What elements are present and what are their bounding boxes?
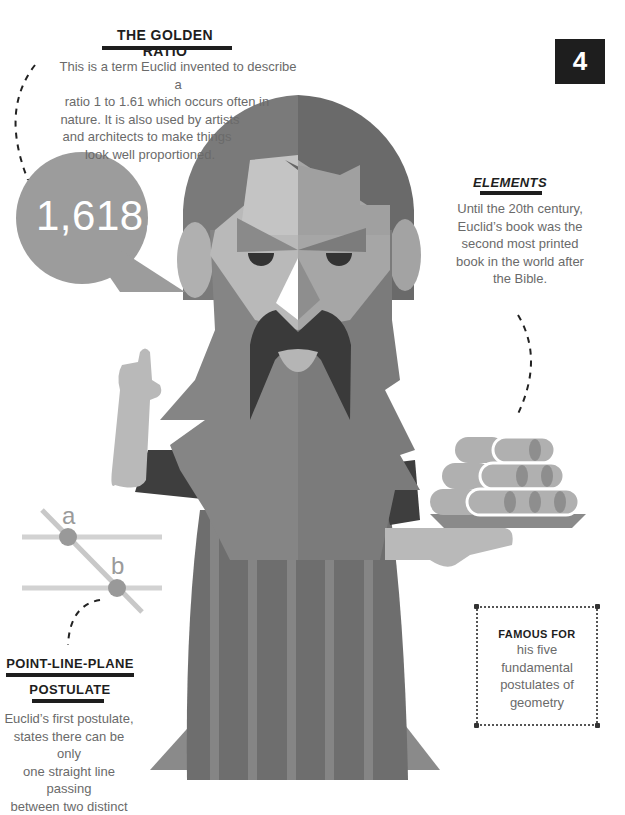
postulate-title-line2: POSTULATE	[4, 682, 136, 697]
elements-text: Until the 20th century, Euclid’s book wa…	[430, 200, 610, 288]
point-line-diagram	[22, 510, 162, 612]
text-line: second most printed	[430, 235, 610, 253]
text-line: his five	[478, 641, 596, 659]
text-line: ratio 1 to 1.61 which occurs often in	[40, 93, 294, 111]
text-line: Until the 20th century,	[430, 200, 610, 218]
right-foot-shape	[405, 725, 440, 770]
text-line: book in the world after	[430, 253, 610, 271]
dashed-connector-postulate	[68, 600, 100, 645]
famous-for-title: FAMOUS FOR	[478, 628, 596, 640]
text-line: postulates of	[478, 676, 596, 694]
famous-for-box: FAMOUS FOR his five fundamental postulat…	[476, 606, 598, 726]
golden-ratio-title-underline	[102, 46, 232, 50]
text-line: fundamental	[478, 659, 596, 677]
famous-for-text: his five fundamental postulates of geome…	[478, 641, 596, 711]
right-ear	[389, 219, 421, 291]
golden-ratio-title: THE GOLDEN RATIO	[100, 27, 230, 59]
text-line: Euclid’s first postulate,	[0, 710, 138, 728]
golden-ratio-value: 1,618...	[36, 192, 180, 240]
left-ear	[177, 222, 213, 298]
elements-title: ELEMENTS	[470, 175, 550, 190]
text-line: between two distinct	[0, 798, 138, 815]
text-line: geometry	[478, 694, 596, 712]
text-line: states there can be only	[0, 728, 138, 763]
postulate-title-underline-1	[6, 673, 134, 677]
text-line: one straight line passing	[0, 763, 138, 798]
page-number-badge: 4	[555, 39, 605, 84]
box-corner	[595, 604, 600, 609]
text-line: nature. It is also used by artists	[40, 111, 260, 129]
dashed-connector-golden	[16, 65, 35, 180]
diagram-label-a: a	[62, 502, 75, 530]
dashed-connector-elements	[516, 315, 531, 418]
text-line: and architects to make things	[40, 128, 254, 146]
text-line: look well proportioned.	[40, 146, 260, 164]
box-corner	[595, 723, 600, 728]
scrolls-on-tray	[430, 437, 586, 528]
diagram-label-b: b	[111, 552, 124, 580]
postulate-text: Euclid’s first postulate, states there c…	[0, 710, 138, 815]
box-corner	[474, 604, 479, 609]
postulate-title-underline-2	[32, 699, 104, 703]
text-line: the Bible.	[430, 270, 610, 288]
postulate-title-line1: POINT-LINE-PLANE	[4, 656, 136, 671]
right-arm	[385, 528, 513, 567]
text-line: Euclid’s book was the	[430, 218, 610, 236]
elements-title-underline	[480, 191, 542, 195]
text-line: This is a term Euclid invented to descri…	[56, 58, 300, 93]
golden-ratio-text: This is a term Euclid invented to descri…	[40, 58, 300, 163]
box-corner	[474, 723, 479, 728]
